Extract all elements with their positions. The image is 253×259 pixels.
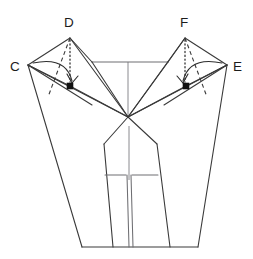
stem-wall-right — [157, 144, 170, 247]
marker-dot-left — [67, 83, 73, 89]
label-f: F — [180, 15, 188, 30]
fan-e-mid — [164, 65, 227, 105]
outer-edge-left — [28, 65, 82, 247]
edge-marker-apex-right — [128, 86, 186, 117]
top-center-panel — [92, 62, 168, 117]
edge-e-f — [185, 38, 227, 65]
left-flap-group — [28, 38, 128, 117]
right-flap-group — [128, 38, 227, 117]
inner-body-outline — [104, 117, 170, 247]
fold-diagram-canvas: C D E F — [0, 0, 253, 259]
fold-arrow-left-head — [67, 74, 78, 83]
label-e: E — [233, 59, 242, 74]
fold-arrow-right-head — [177, 74, 188, 83]
inner-diagonal-left — [104, 117, 128, 144]
fan-e-marker — [186, 65, 227, 86]
label-c: C — [10, 59, 20, 74]
marker-dot-right — [183, 83, 189, 89]
outer-edge-right — [198, 65, 227, 247]
edge-f-apex — [128, 38, 185, 117]
edge-c-d — [28, 38, 70, 65]
crease-dashed-left — [48, 38, 70, 97]
stem-wall-left — [104, 144, 113, 247]
edge-d-apex — [70, 38, 128, 117]
center-axis-group — [128, 62, 129, 180]
label-d: D — [64, 15, 74, 30]
edge-marker-apex-left — [70, 86, 128, 117]
fold-diagram-svg: C D E F — [0, 0, 253, 259]
vertex-labels-group: C D E F — [10, 15, 242, 74]
stem-gap-right — [131, 175, 133, 247]
fan-c-marker — [28, 65, 70, 86]
inner-diagonal-right — [128, 117, 157, 144]
stem-gap-left — [127, 175, 129, 247]
